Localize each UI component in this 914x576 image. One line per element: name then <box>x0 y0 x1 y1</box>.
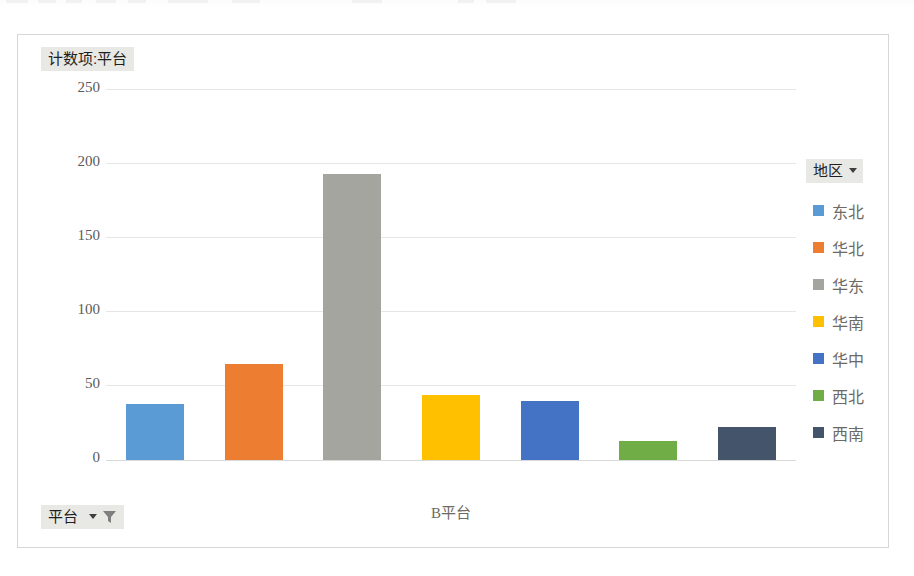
legend-item-西南[interactable]: 西南 <box>806 414 890 451</box>
pivot-chart-frame[interactable]: 计数项:平台 250 200 150 100 50 0 B平台 平台 <box>17 34 889 548</box>
bar-西南[interactable] <box>718 427 776 460</box>
legend-item-list: 东北华北华东华南华中西北西南 <box>806 192 890 451</box>
legend-item-label: 华南 <box>832 310 864 334</box>
bar-华东[interactable] <box>323 174 381 460</box>
legend-swatch-icon <box>813 279 824 290</box>
bar-series-container <box>106 89 796 460</box>
bar-华北[interactable] <box>225 364 283 460</box>
funnel-icon[interactable] <box>102 510 117 524</box>
legend-item-华南[interactable]: 华南 <box>806 303 890 340</box>
plot-area <box>106 89 796 494</box>
legend-field-button[interactable]: 地区 <box>806 159 863 183</box>
bar-华南[interactable] <box>422 395 480 460</box>
legend-swatch-icon <box>813 390 824 401</box>
legend-item-label: 华东 <box>832 273 864 297</box>
legend-item-label: 东北 <box>832 199 864 223</box>
y-tick-150: 150 <box>42 227 100 244</box>
legend-swatch-icon <box>813 353 824 364</box>
legend-item-label: 华中 <box>832 347 864 371</box>
y-tick-0: 0 <box>42 449 100 466</box>
legend-item-东北[interactable]: 东北 <box>806 192 890 229</box>
legend-title-label: 地区 <box>813 162 843 179</box>
bar-西北[interactable] <box>619 441 677 460</box>
legend-item-label: 华北 <box>832 236 864 260</box>
legend-item-label: 西北 <box>832 384 864 408</box>
y-tick-100: 100 <box>42 301 100 318</box>
legend-swatch-icon <box>813 242 824 253</box>
y-tick-50: 50 <box>42 375 100 392</box>
screenshot-root: 计数项:平台 250 200 150 100 50 0 B平台 平台 <box>0 0 914 576</box>
y-axis-tick-labels: 250 200 150 100 50 0 <box>42 79 100 504</box>
legend-item-华东[interactable]: 华东 <box>806 266 890 303</box>
y-tick-200: 200 <box>42 153 100 170</box>
value-field-button-label: 计数项:平台 <box>48 50 127 67</box>
spreadsheet-top-row-strip <box>0 0 914 7</box>
legend-swatch-icon <box>813 316 824 327</box>
axis-field-button-label: 平台 <box>48 508 78 525</box>
legend-swatch-icon <box>813 205 824 216</box>
legend-item-西北[interactable]: 西北 <box>806 377 890 414</box>
bar-华中[interactable] <box>521 401 579 460</box>
axis-baseline <box>106 460 796 461</box>
y-tick-250: 250 <box>42 79 100 96</box>
legend[interactable]: 地区 东北华北华东华南华中西北西南 <box>806 159 890 451</box>
legend-item-华北[interactable]: 华北 <box>806 229 890 266</box>
legend-item-华中[interactable]: 华中 <box>806 340 890 377</box>
bar-东北[interactable] <box>126 404 184 460</box>
axis-field-filter-button[interactable]: 平台 <box>41 505 124 529</box>
value-field-button[interactable]: 计数项:平台 <box>41 47 134 71</box>
chevron-down-icon[interactable] <box>89 514 97 519</box>
legend-swatch-icon <box>813 427 824 438</box>
category-axis-label: B平台 <box>106 501 796 522</box>
chevron-down-icon[interactable] <box>849 168 857 173</box>
legend-item-label: 西南 <box>832 421 864 445</box>
